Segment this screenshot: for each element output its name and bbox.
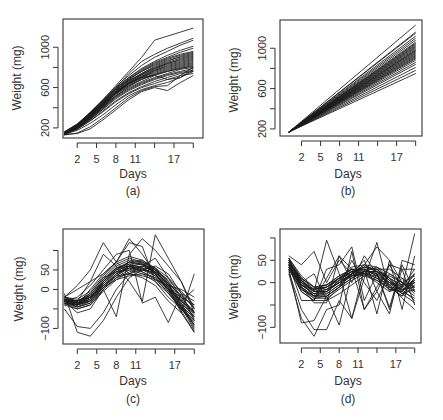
x-tick-label: 11 (130, 153, 141, 165)
x-tick-label: 17 (169, 359, 181, 371)
y-axis: 2006001000 (256, 36, 275, 138)
x-tick-label: 5 (318, 151, 324, 163)
figure: 2581117 2006001000 Days Weight (mg) (a) … (0, 0, 443, 420)
panel-caption: (b) (341, 184, 356, 198)
series-lines (64, 235, 194, 336)
y-tick-label: 600 (256, 79, 268, 97)
y-tick-label: 1000 (256, 36, 268, 60)
y-tick-label: 0 (256, 280, 268, 286)
x-tick-label: 17 (391, 151, 403, 163)
y-tick-label: −100 (39, 316, 51, 341)
y-tick-label: −100 (256, 315, 268, 340)
x-tick-label: 5 (94, 359, 100, 371)
panel-caption: (a) (126, 184, 141, 198)
panel-d: 2581117 −100050 Days Weight (mg) (d) (227, 229, 421, 406)
y-axis-label: Weight (mg) (10, 45, 24, 110)
x-tick-label: 8 (113, 153, 119, 165)
x-tick-label: 17 (168, 153, 180, 165)
x-axis: 2581117 (298, 348, 414, 370)
panel-c: 2581117 −100050 Days Weight (mg) (c) (12, 229, 204, 406)
x-axis: 2581117 (74, 349, 194, 371)
x-tick-label: 5 (317, 358, 323, 370)
x-tick-label: 17 (390, 358, 402, 370)
x-tick-label: 2 (298, 358, 304, 370)
x-axis-label: Days (334, 167, 361, 181)
y-tick-label: 50 (256, 254, 268, 266)
x-tick-label: 5 (93, 153, 99, 165)
panel-a: 2581117 2006001000 Days Weight (mg) (a) (10, 19, 203, 198)
plot-frame (63, 229, 204, 344)
panel-caption: (d) (341, 392, 356, 406)
y-tick-label: 200 (256, 120, 268, 138)
panel-caption: (c) (126, 392, 140, 406)
x-tick-label: 8 (113, 359, 119, 371)
panel-b: 2581117 2006001000 Days Weight (mg) (b) (227, 20, 422, 198)
series-line (289, 25, 416, 132)
y-axis: −100050 (256, 238, 275, 340)
y-axis: 2006001000 (39, 35, 58, 137)
x-tick-label: 2 (74, 359, 80, 371)
y-tick-label: 0 (39, 286, 51, 292)
x-tick-label: 2 (298, 151, 304, 163)
y-tick-label: 200 (39, 119, 51, 137)
y-axis: −100050 (39, 250, 58, 340)
x-axis-label: Days (334, 374, 361, 388)
x-tick-label: 2 (74, 153, 80, 165)
x-tick-label: 11 (130, 359, 141, 371)
y-axis-label: Weight (mg) (227, 47, 241, 112)
y-tick-label: 600 (39, 78, 51, 96)
y-axis-label: Weight (mg) (227, 254, 241, 319)
x-tick-label: 11 (352, 358, 363, 370)
x-axis-label: Days (119, 167, 146, 181)
series-lines (64, 28, 193, 135)
series-lines (289, 234, 415, 337)
y-axis-label: Weight (mg) (12, 256, 26, 321)
x-tick-label: 8 (337, 151, 343, 163)
series-line (289, 247, 415, 307)
x-axis: 2581117 (298, 141, 415, 163)
x-axis: 2581117 (74, 143, 193, 165)
x-axis-label: Days (119, 374, 146, 388)
x-tick-label: 8 (336, 358, 342, 370)
series-lines (289, 25, 416, 132)
x-tick-label: 11 (353, 151, 364, 163)
y-tick-label: 1000 (39, 35, 51, 59)
y-tick-label: 50 (39, 264, 51, 276)
